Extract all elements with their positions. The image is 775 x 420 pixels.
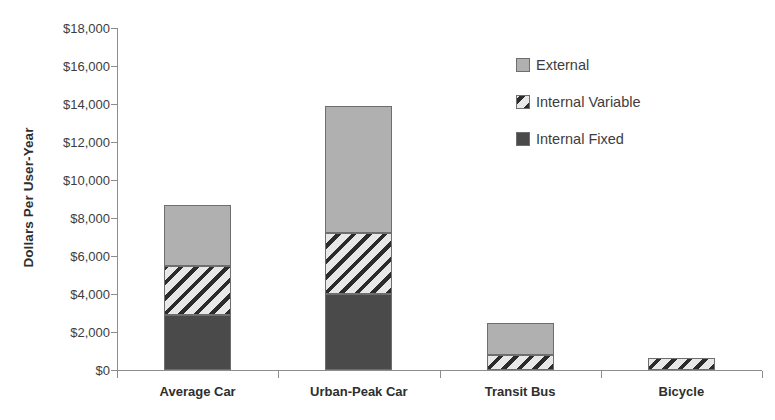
stacked-bar-chart: Dollars Per User-Year $18,000$16,000$14,…	[0, 0, 775, 420]
y-axis-tick-label: $18,000	[38, 21, 110, 36]
y-axis-tick-label: $4,000	[38, 287, 110, 302]
y-axis-tick-label: $14,000	[38, 97, 110, 112]
y-axis-tick-mark	[111, 256, 117, 257]
x-axis-category-label: Bicycle	[606, 384, 756, 399]
y-axis-tick-label: $2,000	[38, 325, 110, 340]
internal-fixed-swatch	[516, 132, 530, 146]
internal-variable-swatch	[516, 95, 530, 109]
external-swatch	[516, 58, 530, 72]
y-axis-tick-label: $10,000	[38, 173, 110, 188]
chart-legend: ExternalInternal VariableInternal Fixed	[516, 46, 756, 157]
y-axis-tick-label: $0	[38, 363, 110, 378]
bar-segment-external	[487, 323, 554, 355]
y-axis-tick-labels: $18,000$16,000$14,000$12,000$10,000$8,00…	[34, 0, 110, 420]
bar-segment-internal-variable	[487, 355, 554, 370]
bar-segment-internal-fixed	[164, 315, 231, 370]
y-axis-tick-label: $16,000	[38, 59, 110, 74]
bar-group	[325, 28, 392, 370]
y-axis-tick-mark	[111, 28, 117, 29]
bar-segment-internal-variable	[164, 266, 231, 315]
y-axis-tick-mark	[111, 104, 117, 105]
x-axis-tick-mark	[601, 371, 602, 378]
x-axis-category-label: Transit Bus	[445, 384, 595, 399]
y-axis-tick-mark	[111, 218, 117, 219]
y-axis-tick-mark	[111, 294, 117, 295]
legend-item: External	[516, 46, 756, 83]
x-axis-tick-mark	[278, 371, 279, 378]
y-axis-tick-mark	[111, 180, 117, 181]
bar-segment-internal-fixed	[325, 294, 392, 370]
y-axis-tick-mark	[111, 66, 117, 67]
legend-item-label: External	[536, 57, 589, 73]
bar-group	[164, 28, 231, 370]
y-axis-tick-mark	[111, 142, 117, 143]
legend-item: Internal Fixed	[516, 120, 756, 157]
legend-item-label: Internal Variable	[536, 94, 641, 110]
y-axis-tick-label: $6,000	[38, 249, 110, 264]
x-axis-tick-mark	[762, 371, 763, 378]
y-axis-tick-mark	[111, 332, 117, 333]
legend-item-label: Internal Fixed	[536, 131, 624, 147]
bar-segment-external	[164, 205, 231, 266]
x-axis-category-label: Urban-Peak Car	[284, 384, 434, 399]
bar-segment-internal-variable	[325, 233, 392, 294]
bar-segment-internal-variable	[648, 358, 715, 370]
y-axis-tick-label: $8,000	[38, 211, 110, 226]
y-axis-tick-label: $12,000	[38, 135, 110, 150]
legend-item: Internal Variable	[516, 83, 756, 120]
x-axis-category-label: Average Car	[123, 384, 273, 399]
x-axis-tick-mark	[440, 371, 441, 378]
bar-segment-external	[325, 106, 392, 233]
x-axis-tick-mark	[117, 371, 118, 378]
